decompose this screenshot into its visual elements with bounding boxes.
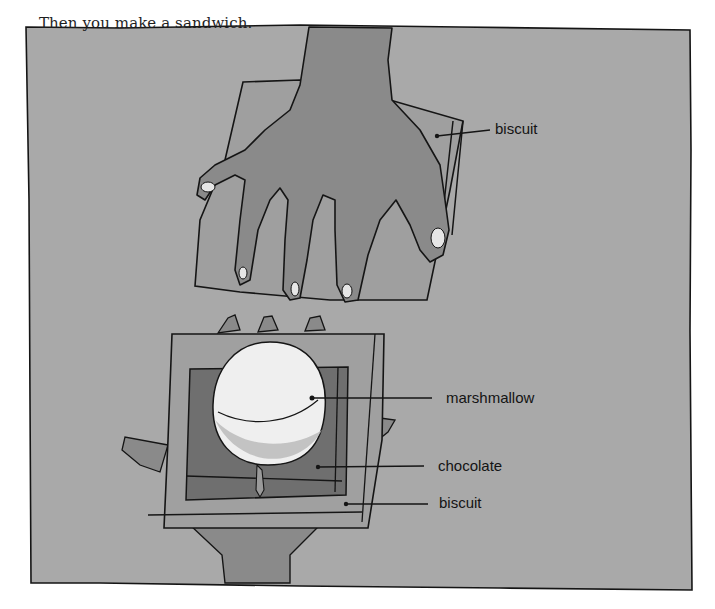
sandwich-illustration xyxy=(0,0,715,609)
page-caption: Then you make a sandwich. xyxy=(39,14,252,32)
label-top-biscuit: biscuit xyxy=(495,120,538,137)
label-marshmallow: marshmallow xyxy=(446,389,534,406)
label-bottom-biscuit: biscuit xyxy=(439,494,482,511)
label-chocolate: chocolate xyxy=(438,457,502,474)
illustration-page: Then you make a sandwich. biscuit marshm… xyxy=(0,0,715,609)
